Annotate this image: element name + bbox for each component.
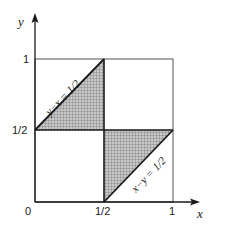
x-tick-one: 1 (169, 205, 175, 217)
x-axis-label: x (196, 206, 203, 221)
diagram-canvas: y x 0 1/2 1 1/2 1 y−x = 1/2 x−y = 1/2 (0, 0, 235, 225)
origin-label: 0 (25, 205, 31, 217)
x-tick-half: 1/2 (95, 205, 110, 217)
y-axis-label: y (16, 14, 24, 29)
y-tick-one: 1 (23, 53, 29, 65)
y-tick-half: 1/2 (12, 124, 27, 136)
